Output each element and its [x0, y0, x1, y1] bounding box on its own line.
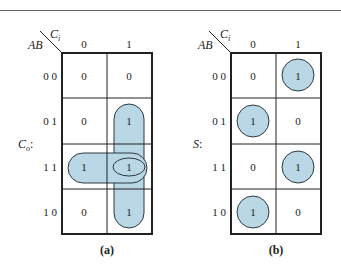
- corner-col-label: Ci: [50, 27, 60, 43]
- row-header: 0 1: [43, 115, 57, 127]
- cell: 0: [126, 70, 132, 82]
- cell: 0: [295, 206, 301, 218]
- cell: 0: [81, 70, 87, 82]
- cell: 1: [295, 70, 301, 82]
- kmap-figure: Ci AB 0 1 0 0 0 1 1 1 1 0 Co: 0 0 0 1 1 …: [0, 0, 341, 269]
- row-header: 1 0: [43, 206, 57, 218]
- cell: 1: [126, 161, 132, 173]
- cell: 0: [81, 115, 87, 127]
- function-label: S:: [193, 137, 202, 151]
- cell: 1: [126, 115, 132, 127]
- corner-col-label: Ci: [220, 27, 230, 43]
- row-header: 1 1: [212, 161, 226, 173]
- caption: (b): [269, 243, 284, 257]
- col-header: 0: [81, 38, 87, 50]
- row-header: 1 0: [212, 206, 226, 218]
- cell: 1: [81, 161, 87, 173]
- cell: 1: [295, 161, 301, 173]
- corner-row-label: AB: [27, 38, 43, 52]
- row-header: 0 1: [212, 115, 226, 127]
- kmap-b: Ci AB 0 1 0 0 0 1 1 1 1 0 S: 0 1 1 0 0 1…: [193, 27, 321, 257]
- cell: 1: [250, 115, 256, 127]
- kmap-a: Ci AB 0 1 0 0 0 1 1 1 1 0 Co: 0 0 0 1 1 …: [18, 27, 152, 257]
- cell: 1: [250, 206, 256, 218]
- col-header: 1: [126, 38, 132, 50]
- row-header: 0 0: [212, 70, 226, 82]
- cell: 0: [81, 206, 87, 218]
- cell: 0: [295, 115, 301, 127]
- row-header: 0 0: [43, 70, 57, 82]
- cell: 1: [126, 206, 132, 218]
- cell: 0: [250, 70, 256, 82]
- cell: 0: [250, 161, 256, 173]
- row-header: 1 1: [43, 161, 57, 173]
- function-label: Co:: [18, 137, 33, 153]
- col-header: 1: [295, 38, 301, 50]
- corner-row-label: AB: [197, 38, 213, 52]
- col-header: 0: [250, 38, 256, 50]
- caption: (a): [100, 243, 114, 257]
